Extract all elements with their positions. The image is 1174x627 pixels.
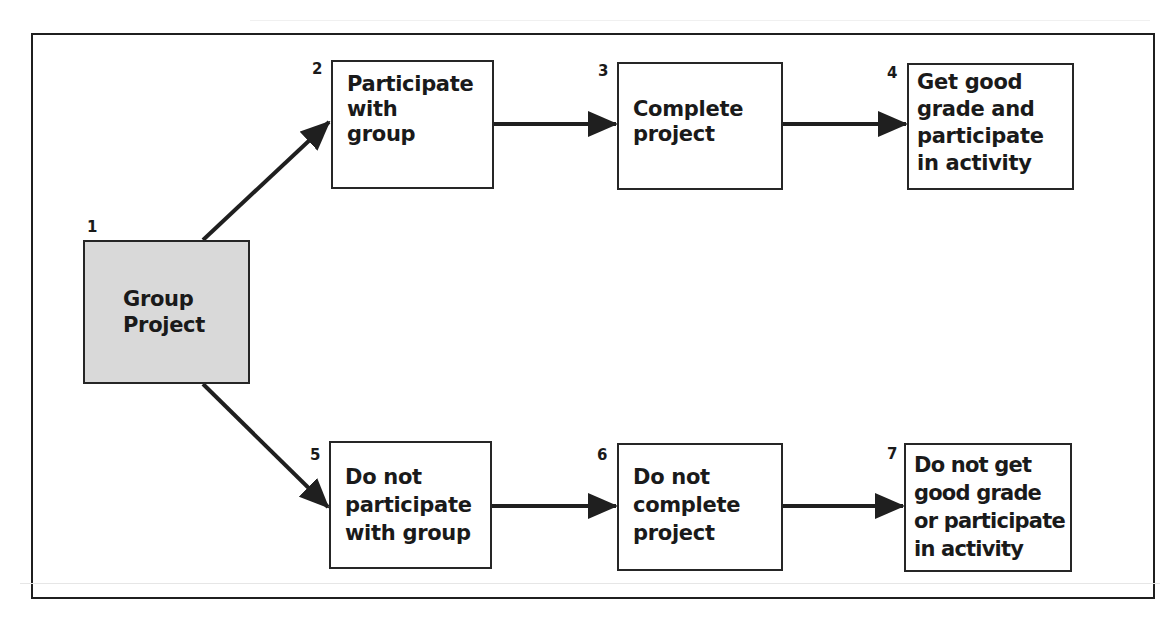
node-2-label: Participate with group xyxy=(347,72,492,147)
node-good-grade-outcome: Get good grade and participate in activi… xyxy=(907,63,1074,190)
background-rule-top xyxy=(250,20,1150,21)
node-7-number: 7 xyxy=(887,447,897,462)
node-3-label: Complete project xyxy=(633,97,781,147)
node-group-project: Group Project xyxy=(83,240,250,384)
node-7-label: Do not get good grade or participate in … xyxy=(914,451,1070,563)
node-2-number: 2 xyxy=(312,62,322,77)
node-1-label: Group Project xyxy=(123,286,248,338)
node-6-label: Do not complete project xyxy=(633,463,781,547)
node-3-number: 3 xyxy=(598,64,608,79)
node-participate-with-group: Participate with group xyxy=(331,60,494,189)
node-6-number: 6 xyxy=(597,448,607,463)
node-no-good-grade-outcome: Do not get good grade or participate in … xyxy=(904,443,1072,572)
node-4-number: 4 xyxy=(887,66,897,81)
node-1-number: 1 xyxy=(87,220,97,235)
node-do-not-complete-project: Do not complete project xyxy=(617,443,783,571)
background-rule-bottom xyxy=(20,583,1160,584)
node-4-label: Get good grade and participate in activi… xyxy=(917,69,1072,177)
node-5-label: Do not participate with group xyxy=(345,463,490,547)
node-do-not-participate: Do not participate with group xyxy=(329,441,492,569)
node-complete-project: Complete project xyxy=(617,62,783,190)
node-5-number: 5 xyxy=(310,448,320,463)
